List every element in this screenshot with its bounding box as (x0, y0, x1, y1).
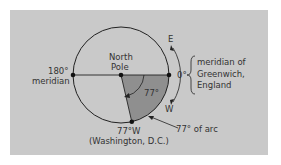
washington-label-line2: (Washington, D.C.) (89, 136, 169, 146)
greenwich-label-line3: England (197, 80, 232, 90)
east-label: E (168, 34, 173, 44)
north-pole-label-line1: North (109, 52, 133, 62)
zero-degree-label: 0° (177, 70, 187, 80)
arc-pointer-line (151, 117, 178, 128)
angle-label: 77° (144, 88, 159, 98)
meridian-180-label-line1: 180° (48, 66, 68, 76)
meridian-180-dot (71, 73, 76, 78)
meridian-180-label-line2: meridian (32, 76, 70, 86)
north-pole-label-line2: Pole (111, 62, 129, 72)
north-pole-dot (119, 73, 124, 78)
greenwich-label-line1: meridian of (197, 57, 246, 67)
arc-label: 77° of arc (176, 124, 218, 134)
greenwich-dot (167, 73, 172, 78)
washington-label-line1: 77°W (117, 126, 140, 136)
greenwich-label-line2: Greenwich, (197, 69, 245, 79)
west-label: W (165, 104, 173, 114)
77-degree-wedge (121, 75, 169, 122)
greenwich-brace (187, 56, 195, 94)
washington-dot (130, 120, 135, 125)
